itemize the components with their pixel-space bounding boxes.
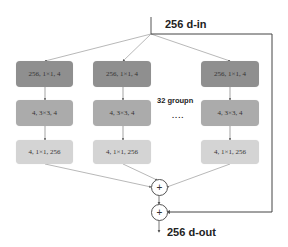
branch-3-layer-3: 4, 1×1, 256 <box>201 140 259 164</box>
input-label: 256 d-in <box>165 18 207 30</box>
branch-2-layer-2: 4, 3×3, 4 <box>93 100 151 126</box>
branch-1-layer-3: 4, 1×1, 256 <box>16 140 73 164</box>
sum-node-groups: + <box>151 179 168 196</box>
branch-2-layer-3: 4, 1×1, 256 <box>93 140 151 164</box>
ellipsis: .... <box>172 111 184 120</box>
branch-3-layer-1: 256, 1×1, 4 <box>201 61 259 87</box>
branch-1-layer-1: 256, 1×1, 4 <box>16 61 73 87</box>
branch-2-layer-1: 256, 1×1, 4 <box>93 61 151 87</box>
output-label: 256 d-out <box>167 226 216 238</box>
sum-node-residual: + <box>151 204 168 221</box>
branch-1-layer-2: 4, 3×3, 4 <box>16 100 73 126</box>
branch-3-layer-2: 4, 3×3, 4 <box>201 100 259 126</box>
group-label: 32 groupn <box>157 96 193 105</box>
